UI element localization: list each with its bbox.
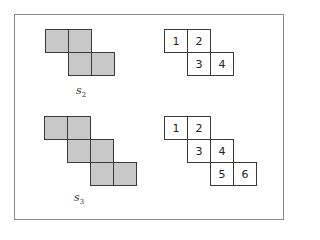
s3-numbered-cell: 6 [233, 162, 257, 186]
s3-shaded-cell [67, 116, 91, 140]
s2-shaded-cell [68, 52, 92, 76]
s3-numbered-cell: 2 [187, 116, 211, 140]
s3-shaded-cell [113, 162, 137, 186]
s3-label: s3 [74, 191, 84, 206]
s3-shaded-cell [67, 139, 91, 163]
s3-numbered-cell: 3 [187, 139, 211, 163]
s2-numbered-cell: 4 [210, 52, 234, 76]
s3-numbered-cell: 4 [210, 139, 234, 163]
s3-shaded-cell [90, 139, 114, 163]
s2-numbered-cell: 3 [187, 52, 211, 76]
s2-shaded-cell [91, 52, 115, 76]
s3-numbered-cell: 5 [210, 162, 234, 186]
s2-numbered-cell: 1 [164, 29, 188, 53]
s2-label: s2 [76, 84, 86, 99]
s3-shaded-cell [44, 116, 68, 140]
s3-shaded-cell [90, 162, 114, 186]
s2-numbered-cell: 2 [187, 29, 211, 53]
s3-numbered-cell: 1 [164, 116, 188, 140]
s2-shaded-cell [45, 29, 69, 53]
s2-shaded-cell [68, 29, 92, 53]
